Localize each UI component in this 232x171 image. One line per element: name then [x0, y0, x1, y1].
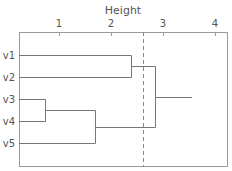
dendrogram-chart: Height 1 2 3 4 v1 v2 v3 v4 v5 [0, 0, 232, 171]
branch-v1-v2 [19, 56, 132, 78]
plot-frame [20, 33, 228, 167]
dendrogram-branches [19, 56, 192, 144]
branch-root [96, 67, 156, 128]
leaf-label-v2: v2 [3, 72, 15, 83]
leaf-label-v4: v4 [3, 116, 15, 127]
tick-label-1: 1 [56, 18, 62, 29]
leaf-label-v3: v3 [3, 94, 15, 105]
leaf-label-v1: v1 [3, 50, 15, 61]
branch-v3-v4 [19, 100, 46, 122]
tick-label-3: 3 [160, 18, 166, 29]
tick-label-4: 4 [212, 18, 218, 29]
axis-title: Height [105, 4, 142, 17]
branch-v34-v5 [19, 111, 96, 144]
leaf-label-v5: v5 [3, 138, 15, 149]
tick-label-2: 2 [108, 18, 114, 29]
